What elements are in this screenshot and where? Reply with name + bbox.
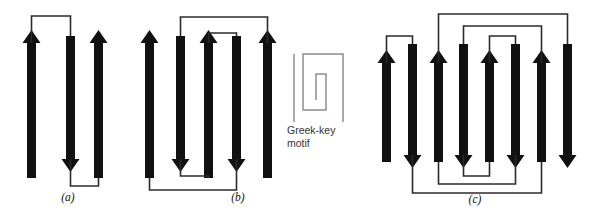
- panel-c-strands: [378, 44, 577, 168]
- beta-strand-arrow-down: [62, 36, 80, 172]
- panel-b-strands: [141, 30, 277, 178]
- beta-sheet-topology-diagram: (a) (b) (c) Greek-key motif: [0, 0, 590, 220]
- panel-a: (a): [23, 16, 108, 204]
- beta-strand-arrow-down: [404, 44, 422, 168]
- beta-strand-arrow-up: [533, 50, 551, 162]
- beta-strand-arrow-up: [430, 50, 448, 162]
- beta-strand-arrow-up: [378, 50, 396, 162]
- beta-strand-arrow-up: [200, 30, 218, 178]
- beta-strand-arrow-up: [481, 50, 499, 162]
- panel-a-label: (a): [61, 191, 75, 204]
- loop-connector: [150, 159, 237, 190]
- beta-strand-arrow-down: [228, 36, 246, 172]
- loop-connector: [464, 26, 542, 63]
- figure-container: (a) (b) (c) Greek-key motif: [0, 0, 590, 220]
- panel-a-strands: [23, 30, 108, 178]
- greek-key-label-line1: Greek-key: [287, 124, 336, 136]
- panel-b: (b): [141, 17, 277, 204]
- beta-strand-arrow-down: [559, 44, 577, 168]
- beta-strand-arrow-up: [259, 30, 277, 178]
- beta-strand-arrow-up: [23, 30, 41, 178]
- beta-strand-arrow-up: [141, 30, 159, 178]
- greek-key-motif-inset: Greek-key motif: [287, 54, 343, 149]
- beta-strand-arrow-up: [90, 30, 108, 178]
- beta-strand-arrow-down: [455, 44, 473, 168]
- greek-key-label-line2: motif: [287, 137, 310, 149]
- panel-c-label: (c): [469, 193, 482, 206]
- panel-b-label: (b): [231, 191, 245, 204]
- beta-strand-arrow-down: [172, 36, 190, 172]
- panel-c: (c): [378, 14, 577, 206]
- greek-key-spiral-path: [303, 54, 343, 122]
- loop-connector: [439, 155, 516, 184]
- loop-connector: [413, 155, 542, 193]
- loop-connector: [181, 17, 268, 43]
- loop-connector: [439, 14, 568, 63]
- beta-strand-arrow-down: [507, 44, 525, 168]
